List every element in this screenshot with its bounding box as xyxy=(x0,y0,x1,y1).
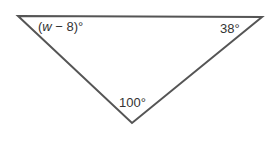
angle-variable: w xyxy=(42,19,51,34)
triangle-diagram: (w − 8)° 38° 100° xyxy=(0,0,274,141)
angle-label-top-right: 38° xyxy=(220,22,240,35)
angle-label-top-left: (w − 8)° xyxy=(38,20,83,33)
angle-label-bottom: 100° xyxy=(119,96,146,109)
angle-suffix: − 8)° xyxy=(52,19,84,34)
